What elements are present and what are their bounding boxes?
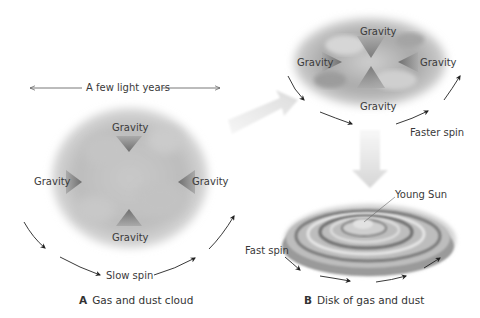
caption-b-text: Disk of gas and dust [317, 294, 424, 306]
protoplanetary-disk [282, 204, 456, 276]
caption-a: AGas and dust cloud [79, 295, 193, 306]
caption-a-letter: A [79, 294, 87, 306]
scale-label: A few light years [86, 83, 170, 93]
transition-arrow-icon [228, 90, 298, 134]
caption-b-letter: B [304, 294, 312, 306]
slow-spin-label: Slow spin [106, 271, 153, 281]
young-sun-label: Young Sun [395, 190, 447, 200]
gravity-label-bottom-mid: Gravity [360, 102, 397, 112]
gravity-label-left-mid: Gravity [297, 58, 334, 68]
caption-a-text: Gas and dust cloud [92, 294, 193, 306]
gravity-label-right: Gravity [192, 177, 229, 187]
fast-spin-label: Fast spin [245, 246, 289, 256]
faster-spin-label: Faster spin [410, 128, 464, 138]
gravity-label-top: Gravity [112, 123, 149, 133]
gravity-label-top-mid: Gravity [360, 27, 397, 37]
caption-b: BDisk of gas and dust [304, 295, 424, 306]
transition-arrow-down-icon [352, 130, 388, 188]
gravity-label-bottom: Gravity [112, 233, 149, 243]
diagram-graphics [0, 0, 480, 318]
gravity-label-left: Gravity [34, 177, 71, 187]
young-sun [353, 219, 373, 229]
gravity-label-right-mid: Gravity [420, 58, 457, 68]
